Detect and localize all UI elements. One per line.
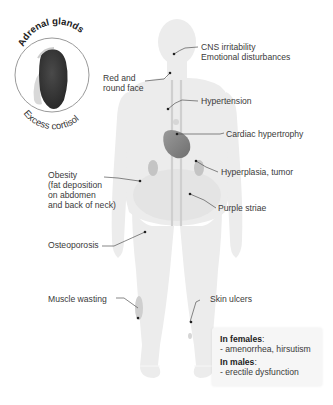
label-obesity-line2: (fat deposition	[48, 180, 116, 190]
label-obesity: Obesity (fat deposition on abdomen and b…	[48, 170, 116, 210]
males-header: In males	[220, 357, 254, 367]
label-cns: CNS irritability Emotional disturbances	[201, 42, 290, 62]
thyroid	[173, 119, 179, 125]
abdomen-shading	[133, 169, 221, 221]
males-text: - erectile dysfunction	[220, 367, 322, 377]
label-osteoporosis: Osteoporosis	[48, 240, 99, 250]
females-group: In females: - amenorrhea, hirsutism	[220, 334, 322, 354]
label-obesity-line4: and back of neck)	[48, 200, 116, 210]
label-face-line2: round face	[103, 83, 144, 93]
adrenal-gland-icon	[39, 49, 68, 109]
females-colon: :	[262, 334, 264, 344]
label-muscle-wasting: Muscle wasting	[48, 294, 107, 304]
label-face-line1: Red and	[103, 73, 144, 83]
males-colon: :	[254, 357, 256, 367]
label-hypertension: Hypertension	[201, 96, 252, 106]
males-group: In males: - erectile dysfunction	[220, 357, 322, 377]
sex-specific-effects-box: In females: - amenorrhea, hirsutism In m…	[212, 328, 322, 386]
females-header: In females	[220, 334, 262, 344]
left-kidney	[148, 160, 158, 176]
label-skin-ulcers: Skin ulcers	[210, 294, 252, 304]
label-hyperplasia: Hyperplasia, tumor	[221, 167, 293, 177]
females-text: - amenorrhea, hirsutism	[220, 344, 322, 354]
label-cns-line2: Emotional disturbances	[201, 52, 290, 62]
label-cns-line1: CNS irritability	[201, 42, 290, 52]
ulcer-mark	[188, 333, 192, 339]
label-obesity-line1: Obesity	[48, 170, 116, 180]
label-face: Red and round face	[103, 73, 144, 93]
label-obesity-line3: on abdomen	[48, 190, 116, 200]
cushing-syndrome-diagram: Adrenal glands Excess cortisol	[0, 0, 333, 405]
adrenal-inset	[15, 38, 89, 112]
label-cardiac-hypertrophy: Cardiac hypertrophy	[226, 129, 303, 139]
calf-shading	[135, 296, 143, 320]
label-purple-striae: Purple striae	[218, 203, 266, 213]
